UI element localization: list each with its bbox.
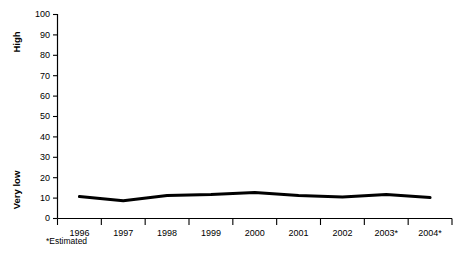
y-axis-tick-label: 40	[40, 132, 50, 142]
y-axis-tick-label: 20	[40, 173, 50, 183]
x-axis-band-label: 2003*	[374, 228, 398, 238]
x-axis-band-label: 1998	[157, 228, 177, 238]
x-axis-band-label: 2004*	[418, 228, 442, 238]
y-axis-tick-label: 50	[40, 111, 50, 121]
axis-annotation-very-low: Very low	[11, 170, 22, 209]
x-axis-band-label: 2001	[289, 228, 309, 238]
chart-canvas: 0102030405060708090100 19961997199819992…	[0, 0, 470, 258]
chart-background	[0, 0, 470, 258]
x-axis-band-label: 2000	[245, 228, 265, 238]
y-axis-tick-label: 10	[40, 193, 50, 203]
y-axis-tick-label: 90	[40, 30, 50, 40]
x-axis-band-label: 1999	[201, 228, 221, 238]
x-axis-band-labels: 19961997199819992000200120022003*2004*	[69, 228, 442, 238]
y-axis-tick-label: 80	[40, 50, 50, 60]
y-axis-tick-label: 100	[35, 9, 50, 19]
y-axis-tick-label: 0	[45, 213, 50, 223]
x-axis-band-label: 1997	[113, 228, 133, 238]
line-chart: 0102030405060708090100 19961997199819992…	[0, 0, 470, 258]
x-axis-band-label: 2002	[332, 228, 352, 238]
axis-annotation-high: High	[11, 31, 22, 52]
y-axis-tick-label: 30	[40, 152, 50, 162]
footnote-estimated: *Estimated	[46, 236, 87, 246]
y-axis-tick-label: 60	[40, 91, 50, 101]
y-axis-tick-label: 70	[40, 71, 50, 81]
